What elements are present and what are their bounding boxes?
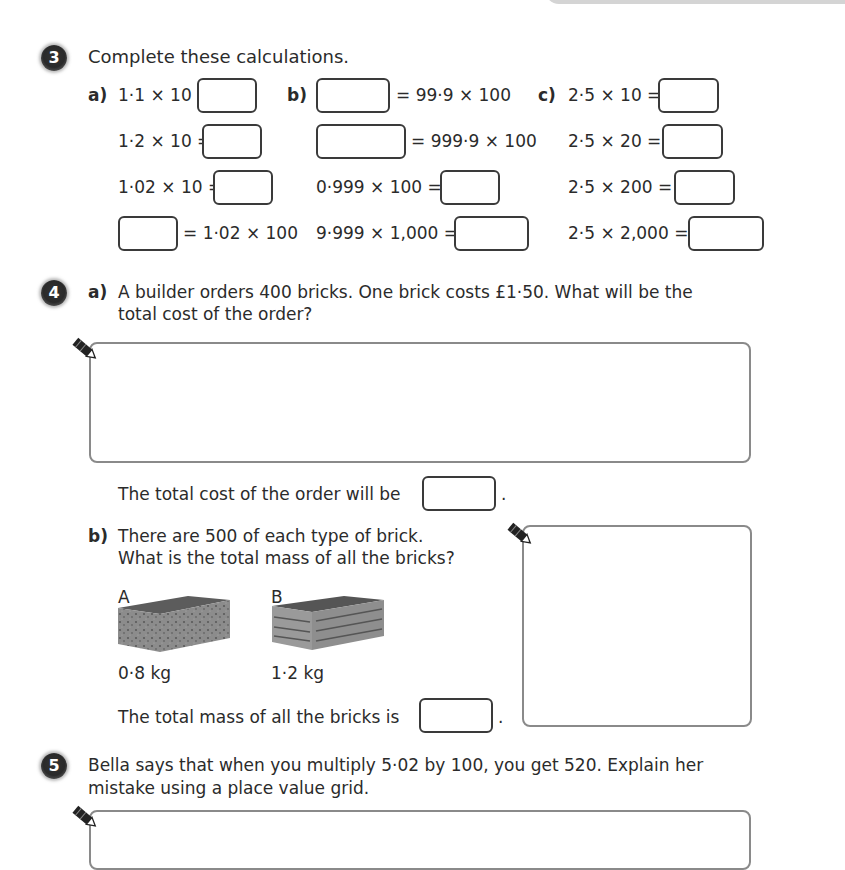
pencil-icon xyxy=(68,803,102,833)
calc-text: 0·999 × 100 = xyxy=(316,176,442,198)
answer-box[interactable] xyxy=(316,124,406,159)
calc-text: = 99·9 × 100 xyxy=(396,84,511,106)
answer-box[interactable] xyxy=(118,216,178,251)
period: . xyxy=(501,483,506,505)
calc-text: 1·02 × 10 = xyxy=(118,176,222,198)
answer-box[interactable] xyxy=(440,170,500,205)
question-number-badge: 5 xyxy=(41,753,67,779)
answer-box[interactable] xyxy=(422,476,496,511)
answer-box[interactable] xyxy=(662,124,723,159)
answer-box[interactable] xyxy=(202,124,262,159)
question-number-badge: 4 xyxy=(41,280,67,306)
brick-mass: 0·8 kg xyxy=(118,662,171,684)
answer-box[interactable] xyxy=(213,170,273,205)
calc-text: = 1·02 × 100 xyxy=(183,222,298,244)
period: . xyxy=(498,706,503,728)
part-label-a: a) xyxy=(88,281,107,303)
answer-sentence: The total mass of all the bricks is xyxy=(118,706,399,728)
calc-text: 1·2 × 10 = xyxy=(118,130,211,152)
answer-box[interactable] xyxy=(674,170,735,205)
answer-box[interactable] xyxy=(419,698,493,733)
working-area[interactable] xyxy=(89,810,751,870)
answer-sentence: The total cost of the order will be xyxy=(118,483,401,505)
question-number-badge: 3 xyxy=(41,45,67,71)
working-area[interactable] xyxy=(522,525,752,727)
question-text: A builder orders 400 bricks. One brick c… xyxy=(118,281,693,303)
calc-text: 2·5 × 20 = xyxy=(568,130,661,152)
question-prompt: Complete these calculations. xyxy=(88,46,349,68)
brick-b-image xyxy=(272,596,387,656)
answer-box[interactable] xyxy=(197,78,257,113)
answer-box[interactable] xyxy=(658,78,719,113)
question-text: There are 500 of each type of brick. xyxy=(118,525,423,547)
brick-a-image xyxy=(118,596,233,656)
part-label-a: a) xyxy=(88,84,107,106)
question-text: What is the total mass of all the bricks… xyxy=(118,547,455,569)
pencil-icon xyxy=(503,520,537,550)
question-text: mistake using a place value grid. xyxy=(88,777,369,799)
calc-text: 2·5 × 2,000 = xyxy=(568,222,688,244)
pencil-icon xyxy=(68,335,102,365)
working-area[interactable] xyxy=(89,342,751,463)
calc-text: = 999·9 × 100 xyxy=(411,130,537,152)
part-label-b: b) xyxy=(287,84,307,106)
question-text: Bella says that when you multiply 5·02 b… xyxy=(88,754,703,776)
answer-box[interactable] xyxy=(316,78,390,113)
part-label-c: c) xyxy=(538,84,556,106)
question-text: total cost of the order? xyxy=(118,303,312,325)
brick-mass: 1·2 kg xyxy=(271,662,324,684)
calc-text: 2·5 × 10 = xyxy=(568,84,661,106)
answer-box[interactable] xyxy=(454,216,529,251)
page-tab-decoration xyxy=(545,0,845,4)
calc-text: 2·5 × 200 = xyxy=(568,176,672,198)
answer-box[interactable] xyxy=(688,216,764,251)
part-label-b: b) xyxy=(88,525,108,547)
calc-text: 9·999 × 1,000 = xyxy=(316,222,458,244)
